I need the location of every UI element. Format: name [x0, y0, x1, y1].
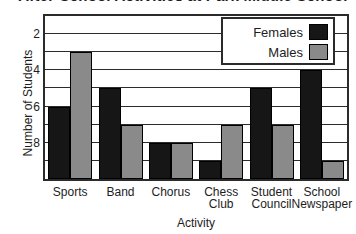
x-tick-line-2: Newspaper: [277, 198, 356, 210]
bar-chart-figure: Number of Students 2 4 6 8 Females Males…: [0, 0, 356, 234]
legend-entry-females: Females: [228, 22, 328, 42]
bar-males-band: [121, 125, 143, 179]
bar-males-chess-club: [221, 125, 243, 179]
bar-females-band: [99, 88, 121, 179]
bar-females-chess-club: [199, 161, 221, 179]
black-swatch-icon: [309, 24, 328, 40]
bar-females-student-council: [250, 88, 272, 179]
x-axis-label: Activity: [43, 216, 349, 230]
legend-entry-males: Males: [228, 42, 328, 62]
bar-females-school-newspaper: [300, 70, 322, 179]
y-tick-label-2: 8: [24, 137, 40, 149]
y-tick-label-4: 6: [24, 101, 40, 113]
chart-legend: Females Males: [221, 17, 335, 65]
y-tick-label-8: 2: [24, 28, 40, 40]
gray-swatch-icon: [309, 44, 328, 60]
bar-males-student-council: [272, 125, 294, 179]
bar-females-chorus: [149, 143, 171, 179]
bar-males-school-newspaper: [322, 161, 344, 179]
bar-males-chorus: [171, 143, 193, 179]
x-tick-label-school-newspaper: SchoolNewspaper: [277, 186, 356, 210]
gridline: [45, 15, 347, 16]
bar-males-sports: [70, 52, 92, 179]
legend-label-females: Females: [253, 25, 303, 40]
legend-label-males: Males: [268, 45, 303, 60]
bar-females-sports: [48, 107, 70, 179]
y-tick-label-6: 4: [24, 64, 40, 76]
